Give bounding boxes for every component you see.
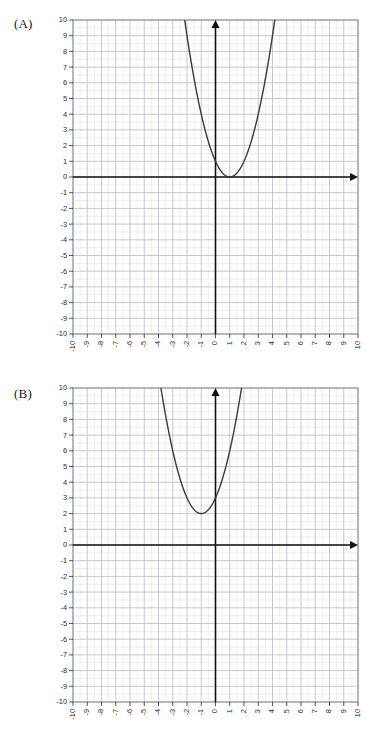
- y-tick-label: 9: [63, 31, 67, 40]
- y-tick-label: -9: [60, 314, 67, 323]
- x-tick-label: 8: [324, 341, 333, 345]
- y-tick-label: -3: [60, 588, 67, 597]
- x-tick-label: 5: [282, 709, 291, 713]
- y-tick-label: -5: [60, 251, 67, 260]
- tick-marks: [69, 20, 358, 338]
- y-tick-label: 4: [63, 110, 67, 119]
- y-tick-label: -1: [60, 188, 67, 197]
- x-tick-label: 0: [210, 709, 219, 713]
- x-tick-label: -5: [139, 709, 148, 716]
- x-tick-label: 7: [310, 709, 319, 713]
- x-tick-label: 9: [339, 709, 348, 713]
- y-tick-label: 3: [63, 125, 67, 134]
- x-tick-label: -2: [182, 709, 191, 716]
- x-tick-label: 1: [225, 709, 234, 713]
- y-tick-label: -4: [60, 235, 67, 244]
- x-tick-label: -7: [111, 709, 120, 716]
- x-tick-label: 6: [296, 709, 305, 713]
- y-tick-label: 1: [63, 525, 67, 534]
- x-tick-label: -7: [111, 341, 120, 348]
- y-tick-label: -6: [60, 635, 67, 644]
- x-tick-label: 9: [339, 341, 348, 345]
- x-tick-label: -3: [168, 709, 177, 716]
- x-tick-label: 5: [282, 341, 291, 345]
- x-tick-label: 10: [353, 709, 362, 717]
- y-tick-label: 1: [63, 157, 67, 166]
- graph-panel-b: (B) 109876543210-1-2-3-4-5-6-7-8-9-10-10…: [0, 370, 386, 732]
- y-axis-arrowhead: [212, 20, 220, 28]
- y-tick-label: -1: [60, 556, 67, 565]
- x-tick-label: -4: [153, 709, 162, 716]
- x-tick-label: -2: [182, 341, 191, 348]
- coordinate-plane-a: 109876543210-1-2-3-4-5-6-7-8-9-10-10-9-8…: [0, 0, 386, 366]
- y-tick-label: -2: [60, 204, 67, 213]
- x-tick-label: -6: [125, 709, 134, 716]
- x-tick-label: -6: [125, 341, 134, 348]
- y-tick-label: 7: [63, 431, 67, 440]
- y-tick-label: -8: [60, 298, 67, 307]
- y-tick-label: 6: [63, 446, 67, 455]
- x-tick-label: 2: [239, 341, 248, 345]
- y-tick-label: 0: [63, 540, 67, 549]
- y-tick-label: -8: [60, 666, 67, 675]
- y-tick-label: -10: [56, 697, 67, 706]
- x-tick-label: -8: [96, 341, 105, 348]
- y-axis-arrowhead: [212, 388, 220, 396]
- x-axis-tick-labels: -10-9-8-7-6-5-4-3-2-1012345678910: [68, 341, 362, 352]
- y-tick-label: -2: [60, 572, 67, 581]
- y-tick-label: 8: [63, 415, 67, 424]
- y-tick-label: 7: [63, 63, 67, 72]
- y-tick-label: 8: [63, 47, 67, 56]
- y-tick-label: 5: [63, 462, 67, 471]
- x-tick-label: 2: [239, 709, 248, 713]
- x-tick-label: -9: [82, 341, 91, 348]
- x-tick-label: 4: [267, 709, 276, 713]
- x-tick-label: 10: [353, 341, 362, 349]
- y-tick-label: -7: [60, 282, 67, 291]
- x-tick-label: -1: [196, 341, 205, 348]
- y-tick-label: 5: [63, 94, 67, 103]
- x-tick-label: 3: [253, 341, 262, 345]
- y-tick-label: 6: [63, 78, 67, 87]
- y-tick-label: -9: [60, 682, 67, 691]
- x-tick-label: -5: [139, 341, 148, 348]
- y-tick-label: 2: [63, 509, 67, 518]
- y-tick-label: 10: [59, 383, 67, 392]
- y-axis-tick-labels: 109876543210-1-2-3-4-5-6-7-8-9-10: [56, 15, 67, 338]
- y-tick-label: 0: [63, 172, 67, 181]
- y-tick-label: -3: [60, 220, 67, 229]
- y-tick-label: 9: [63, 399, 67, 408]
- y-tick-label: -6: [60, 267, 67, 276]
- y-tick-label: -5: [60, 619, 67, 628]
- x-axis-tick-labels: -10-9-8-7-6-5-4-3-2-1012345678910: [68, 709, 362, 720]
- y-tick-label: 10: [59, 15, 67, 24]
- y-axis-tick-labels: 109876543210-1-2-3-4-5-6-7-8-9-10: [56, 383, 67, 706]
- y-tick-label: 4: [63, 478, 67, 487]
- x-tick-label: -1: [196, 709, 205, 716]
- y-tick-label: -4: [60, 603, 67, 612]
- x-tick-label: 6: [296, 341, 305, 345]
- x-tick-label: 8: [324, 709, 333, 713]
- graph-panel-a: (A) 109876543210-1-2-3-4-5-6-7-8-9-10-10…: [0, 0, 386, 366]
- coordinate-plane-b: 109876543210-1-2-3-4-5-6-7-8-9-10-10-9-8…: [0, 370, 386, 732]
- y-tick-label: 3: [63, 493, 67, 502]
- tick-marks: [69, 388, 358, 706]
- x-tick-label: 0: [210, 341, 219, 345]
- x-tick-label: -10: [68, 341, 77, 352]
- x-axis-arrowhead: [350, 541, 358, 549]
- y-tick-label: -10: [56, 329, 67, 338]
- x-tick-label: 4: [267, 341, 276, 345]
- y-tick-label: -7: [60, 650, 67, 659]
- x-tick-label: -3: [168, 341, 177, 348]
- x-tick-label: 7: [310, 341, 319, 345]
- x-tick-label: -10: [68, 709, 77, 720]
- y-tick-label: 2: [63, 141, 67, 150]
- x-tick-label: -9: [82, 709, 91, 716]
- x-tick-label: 1: [225, 341, 234, 345]
- x-tick-label: -4: [153, 341, 162, 348]
- x-tick-label: 3: [253, 709, 262, 713]
- x-axis-arrowhead: [350, 173, 358, 181]
- x-tick-label: -8: [96, 709, 105, 716]
